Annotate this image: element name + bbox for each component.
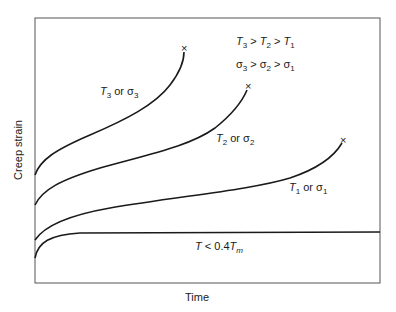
curve-t2 bbox=[35, 90, 247, 205]
label-low-temp: T < 0.4Tm bbox=[195, 240, 243, 255]
rupture-marker-t3: × bbox=[181, 42, 187, 54]
label-t1: T1 or σ1 bbox=[289, 181, 328, 196]
creep-chart: × × × T3 or σ3 T2 or σ2 T1 or σ1 T < 0.4… bbox=[0, 0, 396, 312]
rupture-marker-t1: × bbox=[340, 134, 346, 146]
label-t3: T3 or σ3 bbox=[100, 85, 139, 100]
label-t2: T2 or σ2 bbox=[216, 132, 255, 147]
y-axis-label: Creep strain bbox=[12, 120, 24, 180]
annotation-temperature-order: T3 > T2 > T1 bbox=[236, 35, 295, 50]
annotation-stress-order: σ3 > σ2 > σ1 bbox=[236, 58, 295, 73]
x-axis-label: Time bbox=[185, 291, 209, 303]
curve-t3 bbox=[35, 52, 184, 175]
rupture-marker-t2: × bbox=[245, 80, 251, 92]
